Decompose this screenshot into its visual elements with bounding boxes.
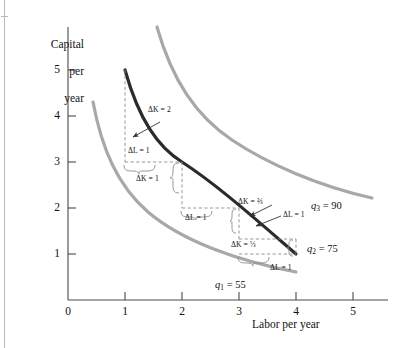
isoquant-label-q1-subscript: 1	[220, 283, 224, 292]
annotation-step2-delta-l: ΔL = 1	[185, 213, 207, 222]
y-axis-title-line3: year	[14, 92, 84, 106]
isoquant-label-q1-value: = 55	[227, 279, 246, 290]
annotation-step4-delta-l: ΔL = 1	[270, 263, 292, 272]
x-tick-label-3: 3	[231, 305, 247, 317]
annotation-step1-delta-l: ΔL = 1	[128, 146, 150, 155]
isoquant-label-q3-value: = 90	[323, 200, 342, 211]
step-3-dk-arrow	[250, 205, 272, 216]
axis-lines	[68, 27, 388, 300]
annotation-step4-delta-k: ΔK = ⅓	[231, 240, 256, 249]
isoquant-figure: Capital per year Labor per year 5 4 3 2 …	[0, 0, 393, 348]
annotation-step2-delta-k: ΔK = 1	[136, 174, 159, 183]
x-tick-label-1: 1	[117, 305, 133, 317]
x-axis-title: Labor per year	[252, 318, 320, 332]
step-1-dl-brace	[124, 165, 155, 174]
isoquant-label-q3: q3 = 90	[311, 200, 342, 213]
isoquant-curve-q1	[93, 102, 296, 272]
isoquant-label-q2: q2 = 75	[307, 243, 338, 256]
isoquant-label-q2-value: = 75	[319, 243, 338, 254]
x-tick-label-5: 5	[345, 305, 361, 317]
step-3-dk-brace	[230, 209, 236, 233]
isoquant-curve-q3	[157, 27, 372, 198]
y-tick-label-1: 1	[46, 247, 60, 259]
isoquant-label-q3-subscript: 3	[316, 204, 320, 213]
y-tick-label-5: 5	[46, 63, 60, 75]
x-tick-label-4: 4	[288, 305, 304, 317]
y-tick-label-3: 3	[46, 155, 60, 167]
x-tick-label-2: 2	[174, 305, 190, 317]
isoquant-label-q1: q1 = 55	[215, 279, 246, 292]
step-2-dk-brace	[170, 163, 179, 193]
isoquant-label-q2-subscript: 2	[312, 247, 316, 256]
y-axis-title-line1: Capital	[14, 38, 84, 52]
annotation-step1-delta-k: ΔK = 2	[148, 105, 171, 114]
y-tick-label-4: 4	[46, 109, 60, 121]
x-axis-ticks	[125, 292, 353, 300]
annotation-step3-delta-l: ΔL = 1	[283, 210, 305, 219]
y-tick-label-2: 2	[46, 201, 60, 213]
annotation-step3-delta-k: ΔK = ⅔	[238, 197, 263, 206]
x-tick-label-0: 0	[60, 305, 76, 317]
